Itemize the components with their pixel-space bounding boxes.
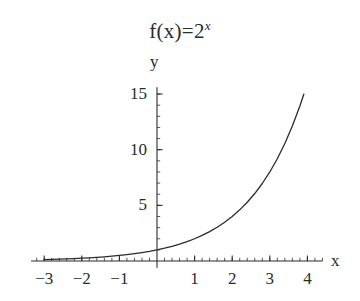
function-curve	[44, 94, 304, 260]
y-tick-label: 10	[107, 141, 147, 158]
x-tick-label: 2	[212, 270, 252, 287]
x-tick-label: −3	[24, 270, 64, 287]
x-tick-label: −2	[62, 270, 102, 287]
y-tick-label: 5	[107, 196, 147, 213]
x-tick-label: −1	[99, 270, 139, 287]
y-axis-major-ticks	[157, 94, 163, 205]
y-tick-label: 15	[107, 85, 147, 102]
x-tick-label: 3	[250, 270, 290, 287]
x-tick-label: 1	[175, 270, 215, 287]
plot-canvas	[0, 0, 360, 301]
x-tick-label: 4	[287, 270, 327, 287]
exponential-function-plot: f(x)=2x y x 51015 −3−2−11234	[0, 0, 360, 301]
